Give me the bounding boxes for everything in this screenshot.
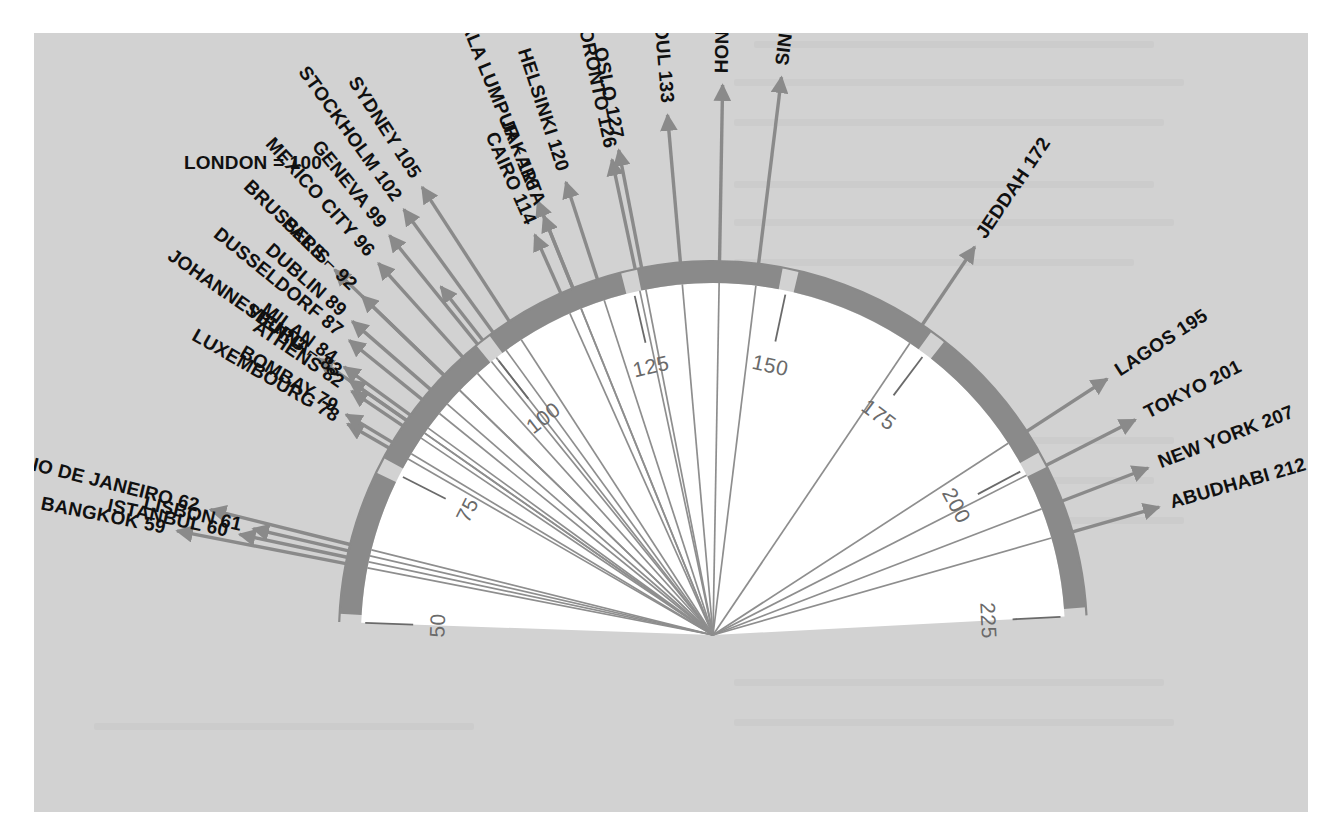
figure-panel: 5075100125150175200225 BANGKOK 59ISTANBU… [34,33,1308,812]
ray-outer-arrow [759,77,782,264]
ray-outer-arrow [1073,507,1160,532]
ray-outer-arrow [720,85,723,261]
city-label: LAGOS 195 [1111,304,1212,380]
baseline-label: LONDON = 100 [184,152,322,173]
ray-outer-arrow [441,287,483,341]
scale-tick-label: 50 [425,613,449,638]
ray-outer-arrow [1062,468,1148,501]
fan-chart: 5075100125150175200225 BANGKOK 59ISTANBU… [34,33,1308,812]
ray-outer-arrow [538,201,573,288]
city-label: SEOUL 133 [648,33,678,104]
city-label: ABUDHABI 212 [1167,453,1308,512]
ray-outer-arrow [668,115,681,262]
city-label: SINGAPORE 145 [771,33,811,66]
city-label: TOKYO 201 [1141,355,1245,422]
city-label: HONG KONG 139 [711,33,735,73]
ray-outer-arrow [349,380,406,420]
city-label: JEDDAH 172 [971,133,1054,242]
ray-outer-arrow [566,182,598,279]
ray-outer-arrow [535,235,561,293]
ray-outer-arrow [1046,420,1135,465]
scale-tick-label: 225 [976,602,1001,640]
ray-outer-arrow [1027,379,1108,431]
ray-outer-arrow [922,247,975,325]
